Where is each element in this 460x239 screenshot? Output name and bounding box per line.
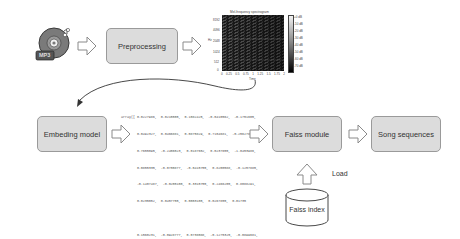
array-line: 0.1560231, -0.0928777, 0.0738088, -0.127… (121, 233, 264, 239)
array-line: 0.7655095, -0.2406023, 0.0187652, 0.0237… (121, 149, 264, 155)
song-sequences-label: Song sequences (378, 130, 434, 139)
array-line: 0.0235052, 0.0457755, 0.0003105, 0.02678… (121, 199, 264, 205)
array-line (121, 216, 264, 222)
faiss-index-label: Faiss index (285, 206, 329, 213)
array-line: 0.0492327, 0.0466881, 0.0875829, 0.71046… (121, 132, 264, 138)
array-line: 0.0855335, -0.0730877, -0.0415755, 0.820… (121, 166, 264, 172)
array-line: -0.1407487, -0.0205100, 0.3315755, 0.246… (121, 182, 264, 188)
faiss-index-node: Faiss index (285, 188, 329, 228)
load-label: Load (332, 170, 348, 177)
array-line: array([ 0.0227986, 0.0215505, 0.1082425,… (121, 115, 264, 121)
song-sequences-node: Song sequences (371, 116, 441, 152)
faiss-module-node: Faiss module (272, 116, 342, 152)
arrow-faiss-module-to-song-sequences (348, 124, 368, 144)
embedding-array-text: array([ 0.0227986, 0.0215505, 0.1082425,… (121, 104, 264, 239)
embedding-model-label: Embeding model (44, 130, 100, 139)
embedding-model-node: Embeding model (37, 116, 107, 152)
arrow-array-to-faiss-module (249, 124, 269, 144)
faiss-module-label: Faiss module (285, 130, 330, 139)
arrow-faiss-index-to-faiss-module (296, 163, 318, 185)
